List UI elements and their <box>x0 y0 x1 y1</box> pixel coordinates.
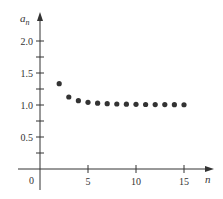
x-tick-label: 10 <box>131 176 141 187</box>
data-point <box>114 101 119 106</box>
y-tick-label: 1.0 <box>21 100 34 111</box>
y-tick-label: 2.0 <box>21 36 34 47</box>
origin-label: 0 <box>29 175 34 186</box>
data-point <box>162 102 167 107</box>
y-tick-label: 1.5 <box>21 68 34 79</box>
x-axis-arrow-icon <box>205 166 214 172</box>
data-point <box>105 101 110 106</box>
data-point <box>76 98 81 103</box>
sequence-scatter-plot: 0.51.01.52.0 51015 0 an n <box>0 0 223 199</box>
y-tick-label: 0.5 <box>21 132 34 143</box>
x-tick-label: 15 <box>179 176 189 187</box>
x-tick-label: 5 <box>86 176 91 187</box>
data-point <box>66 94 71 99</box>
data-point <box>153 102 158 107</box>
data-point <box>95 101 100 106</box>
x-ticks: 51015 <box>86 165 190 187</box>
data-point <box>181 102 186 107</box>
data-point <box>57 81 62 86</box>
axes <box>18 18 208 190</box>
y-axis-arrow-icon <box>37 12 43 21</box>
y-axis-label: an <box>20 12 30 27</box>
data-point <box>143 102 148 107</box>
x-axis-label: n <box>205 173 211 185</box>
data-point <box>133 102 138 107</box>
data-point <box>124 102 129 107</box>
data-points <box>57 81 187 107</box>
data-point <box>85 100 90 105</box>
data-point <box>172 102 177 107</box>
